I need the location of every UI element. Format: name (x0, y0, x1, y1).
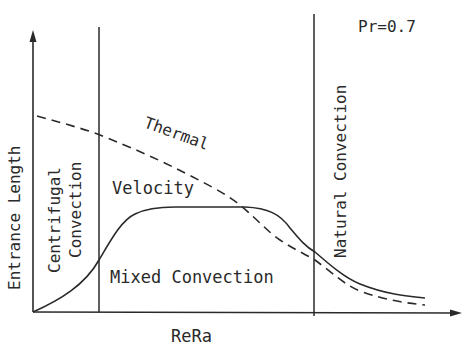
x-axis-label: ReRa (171, 326, 212, 346)
x-axis-arrow-icon (450, 310, 462, 317)
region-label-centrifugal-line1: Centrifugal (45, 167, 64, 273)
y-axis-arrow-icon (30, 30, 37, 42)
prandtl-label: Pr=0.7 (358, 17, 416, 36)
region-label-natural: Natural Convection (331, 85, 350, 258)
region-label-mixed: Mixed Convection (110, 267, 274, 287)
curve-label-velocity: Velocity (112, 178, 194, 198)
entrance-length-diagram: Pr=0.7 Entrance Length ReRa Centrifugal … (0, 0, 464, 359)
velocity-curve (33, 207, 425, 312)
x-axis (33, 312, 452, 313)
region-label-centrifugal-line2: Convection (66, 162, 85, 258)
y-axis-label: Entrance Length (5, 146, 24, 291)
curve-label-thermal: Thermal (142, 113, 212, 154)
